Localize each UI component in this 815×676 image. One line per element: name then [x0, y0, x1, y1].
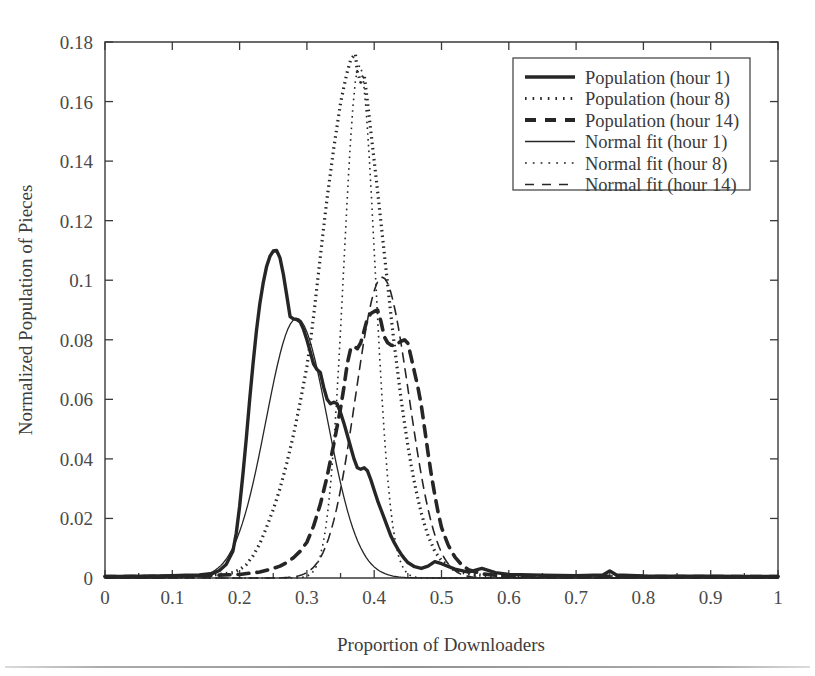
- x-tick-label: 1: [773, 587, 783, 608]
- chart-legend[interactable]: Population (hour 1)Population (hour 8)Po…: [513, 58, 750, 196]
- legend-label: Normal fit (hour 1): [585, 132, 727, 153]
- x-tick-label: 0.4: [362, 587, 386, 608]
- x-tick-label: 0.8: [632, 587, 656, 608]
- figure-container: 00.10.20.30.40.50.60.70.80.91 00.020.040…: [0, 0, 815, 676]
- x-tick-label: 0.1: [160, 587, 184, 608]
- legend-label: Normal fit (hour 14): [585, 175, 737, 196]
- y-axis-title: Normalized Population of Pieces: [15, 185, 36, 436]
- y-tick-label: 0.14: [60, 151, 94, 172]
- y-tick-label: 0.08: [60, 330, 93, 351]
- legend-label: Population (hour 8): [585, 89, 730, 110]
- series-line: [105, 277, 778, 578]
- x-tick-label: 0.2: [228, 587, 252, 608]
- series-line: [105, 318, 778, 578]
- x-tick-label: 0.5: [430, 587, 454, 608]
- y-tick-label: 0.18: [60, 32, 93, 53]
- y-tick-label: 0.02: [60, 508, 93, 529]
- y-tick-label: 0.16: [60, 92, 93, 113]
- y-tick-label: 0.06: [60, 389, 93, 410]
- x-tick-label: 0.9: [699, 587, 723, 608]
- page-footer-rule: [5, 666, 810, 668]
- legend-label: Population (hour 14): [585, 111, 739, 132]
- x-tick-label: 0.7: [564, 587, 588, 608]
- population-distribution-chart: 00.10.20.30.40.50.60.70.80.91 00.020.040…: [0, 0, 815, 676]
- legend-label: Population (hour 1): [585, 68, 730, 89]
- series-line: [105, 310, 778, 577]
- y-tick-label: 0.04: [60, 449, 94, 470]
- x-tick-label: 0.3: [295, 587, 319, 608]
- x-tick-label: 0: [100, 587, 110, 608]
- y-tick-label: 0: [84, 568, 94, 589]
- y-axis-tick-labels: 00.020.040.060.080.10.120.140.160.18: [60, 32, 94, 589]
- y-tick-label: 0.12: [60, 211, 93, 232]
- x-axis-title: Proportion of Downloaders: [337, 634, 545, 655]
- y-tick-label: 0.1: [69, 270, 93, 291]
- x-axis-tick-labels: 00.10.20.30.40.50.60.70.80.91: [100, 587, 783, 608]
- legend-label: Normal fit (hour 8): [585, 154, 727, 175]
- x-tick-label: 0.6: [497, 587, 521, 608]
